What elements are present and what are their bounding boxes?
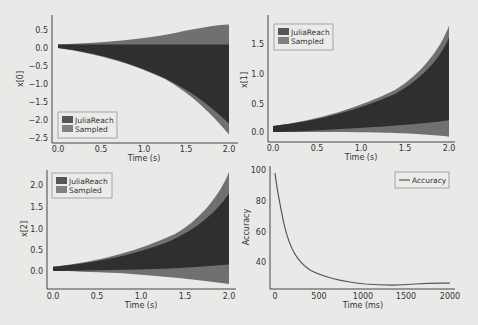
svg-text:Sampled: Sampled <box>75 125 108 134</box>
y-axis-label: x[0] <box>16 71 25 87</box>
sampled-swatch <box>56 186 67 193</box>
svg-text:1.5: 1.5 <box>399 144 412 153</box>
y-tick-labels: 1.5 1.0 0.5 0.0 <box>251 40 264 137</box>
svg-text:2.0: 2.0 <box>223 145 236 154</box>
x-tick-labels: 0.0 0.5 1.0 1.5 2.0 <box>52 145 236 154</box>
svg-text:0.5: 0.5 <box>35 26 48 35</box>
svg-text:0.0: 0.0 <box>35 44 48 53</box>
juliareach-swatch <box>56 177 67 184</box>
y-axis-label: x[1] <box>240 72 249 88</box>
svg-text:1.5: 1.5 <box>30 203 43 212</box>
subplot-x2: 2.0 1.5 1.0 0.5 0.0 0.0 0.5 1.0 1.5 2.0 … <box>20 170 236 310</box>
svg-text:0.0: 0.0 <box>267 144 280 153</box>
svg-text:−2.0: −2.0 <box>29 116 48 125</box>
svg-text:60: 60 <box>256 228 266 237</box>
x-axis-label: Time (s) <box>344 153 378 162</box>
y-axis-label: x[2] <box>20 221 29 237</box>
svg-text:0.5: 0.5 <box>30 246 43 255</box>
y-axis-label: Accuracy <box>242 208 251 245</box>
svg-text:0: 0 <box>272 292 277 301</box>
subplot-x0: 0.5 0.0 −0.5 −1.0 −1.5 −2.0 −2.5 0.0 0.5… <box>16 15 238 163</box>
svg-text:1.0: 1.0 <box>135 292 148 301</box>
svg-text:−0.5: −0.5 <box>29 62 48 71</box>
svg-text:1000: 1000 <box>353 292 373 301</box>
svg-text:0.5: 0.5 <box>251 100 264 109</box>
svg-text:100: 100 <box>251 166 266 175</box>
juliareach-band-x1 <box>273 38 449 132</box>
juliareach-band-x2 <box>53 194 229 271</box>
sampled-swatch <box>278 37 289 44</box>
svg-text:2.0: 2.0 <box>30 181 43 190</box>
svg-text:1.5: 1.5 <box>251 40 264 49</box>
svg-text:−1.5: −1.5 <box>29 98 48 107</box>
svg-text:0.5: 0.5 <box>311 144 324 153</box>
svg-text:2.0: 2.0 <box>443 144 456 153</box>
sampled-swatch <box>62 125 73 132</box>
legend: JuliaReach Sampled <box>52 173 112 198</box>
svg-text:−2.5: −2.5 <box>29 134 48 143</box>
svg-text:0.0: 0.0 <box>251 128 264 137</box>
y-tick-labels: 100 80 60 40 <box>251 166 266 267</box>
svg-text:1.0: 1.0 <box>251 70 264 79</box>
svg-text:JuliaReach: JuliaReach <box>68 177 108 186</box>
figure: 0.5 0.0 −0.5 −1.0 −1.5 −2.0 −2.5 0.0 0.5… <box>0 0 478 325</box>
svg-text:0.0: 0.0 <box>30 267 43 276</box>
svg-text:1.0: 1.0 <box>138 145 151 154</box>
svg-text:1.5: 1.5 <box>179 292 192 301</box>
svg-text:0.5: 0.5 <box>91 292 104 301</box>
svg-text:0.0: 0.0 <box>47 292 60 301</box>
x-axis-label: Time (s) <box>127 154 161 163</box>
svg-text:1500: 1500 <box>396 292 416 301</box>
svg-text:1.0: 1.0 <box>355 144 368 153</box>
svg-text:JuliaReach: JuliaReach <box>290 28 330 37</box>
juliareach-swatch <box>278 28 289 35</box>
svg-text:2.0: 2.0 <box>223 292 236 301</box>
subplot-x1: 1.5 1.0 0.5 0.0 0.0 0.5 1.0 1.5 2.0 Time… <box>240 15 455 162</box>
subplot-accuracy: 100 80 60 40 0 500 1000 1500 2000 Time (… <box>242 166 460 310</box>
x-axis-label: Time (s) <box>124 301 158 310</box>
y-tick-labels: 0.5 0.0 −0.5 −1.0 −1.5 −2.0 −2.5 <box>29 26 48 143</box>
svg-text:2000: 2000 <box>440 292 460 301</box>
juliareach-swatch <box>62 116 73 123</box>
svg-text:Sampled: Sampled <box>69 186 102 195</box>
accuracy-line <box>275 173 450 285</box>
x-tick-labels: 0.0 0.5 1.0 1.5 2.0 <box>47 292 236 301</box>
svg-text:−1.0: −1.0 <box>29 80 48 89</box>
svg-text:80: 80 <box>256 197 266 206</box>
svg-text:0.0: 0.0 <box>52 145 65 154</box>
svg-text:0.5: 0.5 <box>95 145 108 154</box>
svg-text:40: 40 <box>256 258 266 267</box>
legend: JuliaReach Sampled <box>274 24 333 50</box>
svg-text:JuliaReach: JuliaReach <box>74 116 114 125</box>
svg-text:Sampled: Sampled <box>291 37 324 46</box>
svg-text:Accuracy: Accuracy <box>412 176 447 185</box>
x-axis-label: Time (ms) <box>342 301 383 310</box>
x-tick-labels: 0.0 0.5 1.0 1.5 2.0 <box>267 144 456 153</box>
legend: Accuracy <box>395 172 449 188</box>
svg-text:500: 500 <box>311 292 326 301</box>
legend: JuliaReach Sampled <box>58 112 117 138</box>
x-tick-labels: 0 500 1000 1500 2000 <box>272 292 460 301</box>
y-tick-labels: 2.0 1.5 1.0 0.5 0.0 <box>30 181 43 276</box>
svg-text:1.5: 1.5 <box>180 145 193 154</box>
svg-text:1.0: 1.0 <box>30 225 43 234</box>
